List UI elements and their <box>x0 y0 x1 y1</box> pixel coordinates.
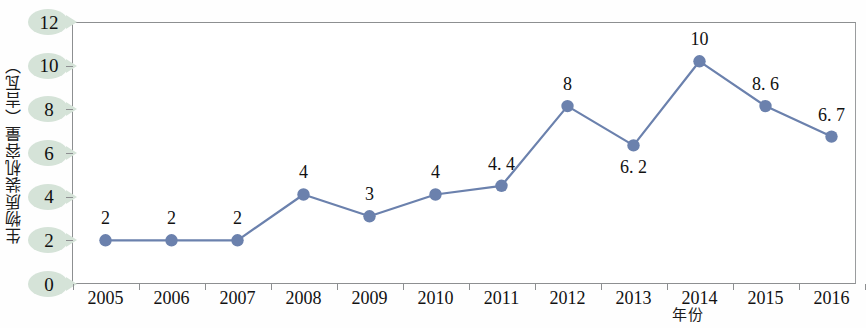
x-tick-label-2007: 2007 <box>205 288 271 309</box>
x-tick-mark <box>205 284 206 290</box>
x-tick-label-2016: 2016 <box>799 288 865 309</box>
y-tick-text: 6 <box>44 144 54 163</box>
y-tick-text: 2 <box>44 231 54 250</box>
data-label-2010: 4 <box>431 162 440 183</box>
x-tick-mark <box>337 284 338 290</box>
data-label-2015: 8. 6 <box>752 74 779 95</box>
y-tick-label-0: 0 <box>26 271 72 297</box>
data-label-2005: 2 <box>101 208 110 229</box>
x-tick-label-2013: 2013 <box>601 288 667 309</box>
x-tick-mark <box>667 284 668 290</box>
x-tick-mark <box>865 284 866 290</box>
x-axis-title: 年份 <box>672 303 704 324</box>
data-label-2008: 4 <box>299 162 308 183</box>
y-tick-mark <box>66 109 73 110</box>
x-tick-mark <box>469 284 470 290</box>
y-tick-label-12: 12 <box>26 9 72 35</box>
data-label-2009: 3 <box>365 184 374 205</box>
y-tick-mark <box>66 66 73 67</box>
x-tick-mark <box>271 284 272 290</box>
y-tick-text: 10 <box>40 56 59 75</box>
biomass-capacity-line-chart: 生物质装机容量（吉瓦） 024681012 200520062007200820… <box>0 0 866 328</box>
y-tick-text: 12 <box>40 13 59 32</box>
x-tick-mark <box>403 284 404 290</box>
data-label-2014: 10 <box>691 29 709 50</box>
data-label-2013: 6. 2 <box>620 157 647 178</box>
x-tick-mark <box>799 284 800 290</box>
data-label-2012: 8 <box>563 74 572 95</box>
x-tick-mark <box>535 284 536 290</box>
y-axis-title: 生物质装机容量（吉瓦） <box>2 18 28 284</box>
y-tick-text: 8 <box>44 100 54 119</box>
plot-area <box>72 22 856 284</box>
data-label-2011: 4. 4 <box>488 154 515 175</box>
x-tick-mark <box>73 284 74 290</box>
x-tick-label-2010: 2010 <box>403 288 469 309</box>
x-tick-label-2006: 2006 <box>139 288 205 309</box>
x-tick-mark <box>601 284 602 290</box>
x-tick-label-2015: 2015 <box>733 288 799 309</box>
y-tick-mark <box>66 240 73 241</box>
x-tick-label-2009: 2009 <box>337 288 403 309</box>
y-tick-mark <box>66 197 73 198</box>
y-tick-text: 0 <box>44 275 54 294</box>
data-label-2007: 2 <box>233 208 242 229</box>
y-tick-text: 4 <box>44 187 54 206</box>
x-tick-label-2005: 2005 <box>73 288 139 309</box>
x-tick-label-2008: 2008 <box>271 288 337 309</box>
x-tick-label-2011: 2011 <box>469 288 535 309</box>
x-tick-mark <box>139 284 140 290</box>
data-label-2016: 6. 7 <box>818 105 845 126</box>
data-label-2006: 2 <box>167 208 176 229</box>
x-tick-label-2012: 2012 <box>535 288 601 309</box>
y-tick-mark <box>66 153 73 154</box>
x-tick-mark <box>733 284 734 290</box>
